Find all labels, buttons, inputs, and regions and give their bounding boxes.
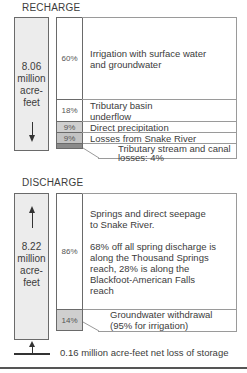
row-note-4: Blackfoot-American Falls — [90, 274, 216, 285]
row-label: Losses from Snake River — [90, 133, 196, 144]
bottom-divider — [0, 367, 247, 369]
discharge-total-unit: million — [15, 253, 48, 265]
storage-loss-icon — [14, 341, 50, 356]
row-note-5: reach — [90, 285, 216, 296]
row-label: Tributary basin — [90, 100, 152, 111]
recharge-row-tributary: Tributary basinunderflow — [82, 99, 237, 122]
recharge-total-value: 8.06 — [15, 61, 48, 73]
callout-label-2: losses: 4% — [118, 153, 236, 162]
discharge-total-unit-2: acre- — [15, 265, 48, 277]
recharge-total-unit: million — [15, 73, 48, 85]
arrow-up-icon — [31, 206, 34, 228]
pct-label: 60% — [61, 54, 77, 63]
recharge-pct-irrigation: 60% — [56, 17, 83, 100]
pct-label: 86% — [61, 247, 77, 256]
row-label-2: and groundwater — [90, 59, 206, 70]
row-note-3: reach, 28% is along the — [90, 263, 216, 274]
row-label-2: (95% for irrigation) — [110, 321, 236, 332]
discharge-pct-springs: 86% — [56, 193, 83, 310]
storage-label: 0.16 million acre-feet net loss of stora… — [60, 347, 228, 358]
discharge-total-unit-3: feet — [15, 277, 48, 289]
recharge-total-unit-3: feet — [15, 97, 48, 109]
recharge-total-unit-2: acre- — [15, 85, 48, 97]
recharge-callout-tributary-stream: Tributary stream and canal losses: 4% — [98, 143, 237, 159]
row-label: Direct precipitation — [90, 122, 169, 133]
row-label-2: to Snake River. — [90, 219, 216, 230]
row-label: Irrigation with surface water — [90, 48, 206, 59]
recharge-pct-tributary: 18% — [56, 99, 83, 122]
pct-label: 18% — [61, 106, 77, 115]
discharge-title: DISCHARGE — [22, 177, 83, 188]
recharge-total-box: 8.06 million acre- feet — [14, 17, 49, 151]
pct-label: 9% — [64, 123, 76, 132]
row-label: Springs and direct seepage — [90, 208, 216, 219]
pct-label: 9% — [64, 134, 76, 143]
discharge-row-withdrawal: Groundwater withdrawal (95% for irrigati… — [98, 309, 237, 332]
recharge-row-irrigation: Irrigation with surface waterand groundw… — [82, 17, 237, 100]
arrow-down-icon — [31, 122, 34, 142]
discharge-pct-withdrawal: 14% — [56, 309, 83, 331]
discharge-total-value: 8.22 — [15, 241, 48, 253]
recharge-title: RECHARGE — [22, 2, 80, 13]
row-label: Groundwater withdrawal — [110, 310, 236, 321]
row-note: 68% off all spring discharge is — [90, 241, 216, 252]
pct-label: 14% — [61, 316, 77, 325]
discharge-row-springs: Springs and direct seepage to Snake Rive… — [82, 193, 237, 310]
row-label-2: underflow — [90, 111, 152, 122]
row-note-2: along the Thousand Springs — [90, 252, 216, 263]
recharge-pct-tributary-stream — [56, 143, 83, 149]
discharge-total-box: 8.22 million acre- feet — [14, 193, 49, 340]
